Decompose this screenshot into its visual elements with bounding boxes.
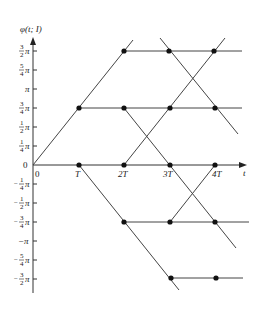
svg-text:5: 5 [20,62,24,70]
node [166,48,171,53]
svg-text:−: − [14,275,18,283]
axes [33,42,240,293]
svg-text:3: 3 [20,214,24,222]
svg-text:4: 4 [20,146,24,154]
svg-text:2: 2 [20,203,24,211]
y-axis-label: φ(t; I) [20,24,42,34]
x-tick-2T: 2T [118,169,129,179]
x-axis-label: t [243,168,246,178]
node [76,105,81,110]
node [211,48,216,53]
svg-text:4: 4 [20,260,24,268]
node [167,219,172,224]
svg-text:π: π [25,179,30,189]
svg-text:−π: −π [18,236,29,246]
node [212,105,217,110]
path-segment [124,38,225,165]
svg-text:4: 4 [20,222,24,230]
x-tick-4T: 4T [212,169,223,179]
node [121,219,126,224]
svg-text:π: π [25,255,30,265]
svg-text:2: 2 [20,127,24,135]
path-segment [160,38,238,134]
y-axis-arrow-icon [30,37,36,45]
svg-text:3: 3 [20,271,24,279]
svg-text:π: π [25,103,30,113]
svg-text:π: π [25,84,30,94]
node [167,105,172,110]
x-tick-T: T [75,169,81,179]
svg-text:π: π [25,141,30,151]
svg-text:π: π [25,46,30,56]
x-tick-3T: 3T [162,169,174,179]
svg-text:2: 2 [20,279,24,287]
node [121,162,126,167]
node [212,162,217,167]
svg-text:1: 1 [20,119,24,127]
svg-text:4: 4 [20,108,24,116]
svg-text:2: 2 [20,51,24,59]
node [212,219,217,224]
svg-text:π: π [25,198,30,208]
path-segment [33,40,133,165]
node [167,162,172,167]
svg-text:1: 1 [20,195,24,203]
svg-text:4: 4 [20,184,24,192]
origin-label-bottom: 0 [35,169,40,179]
svg-text:π: π [25,274,30,284]
node [168,275,173,280]
node [121,105,126,110]
svg-text:4: 4 [20,70,24,78]
node [121,48,126,53]
svg-text:−: − [14,180,18,188]
y-tick-labels: 32 π 54 π π 34 π 12 π 14 π − 14 π − 12 π… [14,43,30,287]
node [76,162,81,167]
path-segment [79,165,179,290]
svg-text:5: 5 [20,252,24,260]
svg-text:3: 3 [20,43,24,51]
svg-text:1: 1 [20,176,24,184]
node [213,275,218,280]
svg-text:π: π [25,65,30,75]
svg-text:3: 3 [20,100,24,108]
svg-text:−: − [14,218,18,226]
svg-text:−: − [14,256,18,264]
origin-label-left: 0 [23,160,28,170]
svg-text:π: π [25,122,30,132]
svg-text:−: − [14,199,18,207]
svg-text:1: 1 [20,138,24,146]
svg-text:π: π [25,217,30,227]
phase-trellis-diagram: φ(t; I) t 0 0 T 2T 3T 4T 32 π 54 π π 34 … [0,0,266,311]
